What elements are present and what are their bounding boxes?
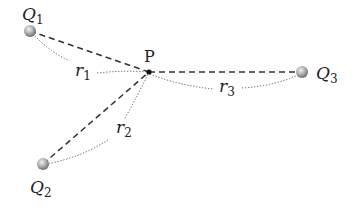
dotted-arc-r2-b bbox=[46, 140, 108, 164]
distance-r1-label: r1 bbox=[75, 60, 91, 83]
distance-r2-label: r2 bbox=[116, 117, 132, 140]
charge-q2-label: Q2 bbox=[30, 177, 52, 200]
dotted-arc-r1-b bbox=[97, 71, 149, 73]
diagram-canvas: P Q1 Q2 Q3 r1 r2 r3 bbox=[0, 0, 353, 216]
charge-q3-label: Q3 bbox=[316, 63, 338, 86]
charge-q3-sphere bbox=[296, 66, 308, 78]
diagram-svg: P Q1 Q2 Q3 r1 r2 r3 bbox=[0, 0, 353, 216]
dashed-line-q1-p bbox=[30, 31, 149, 72]
dashed-line-q2-p bbox=[43, 72, 149, 164]
point-p-dot bbox=[146, 69, 151, 74]
distance-r3-label: r3 bbox=[219, 76, 235, 99]
dotted-arc-r2-a bbox=[124, 72, 149, 120]
dotted-arc-r3-a bbox=[150, 74, 214, 89]
dotted-arc-r3-b bbox=[242, 74, 300, 88]
charge-q2-sphere bbox=[37, 158, 49, 170]
charge-q1-sphere bbox=[24, 25, 36, 37]
charge-q1-label: Q1 bbox=[22, 4, 44, 27]
point-p-label: P bbox=[144, 47, 155, 66]
